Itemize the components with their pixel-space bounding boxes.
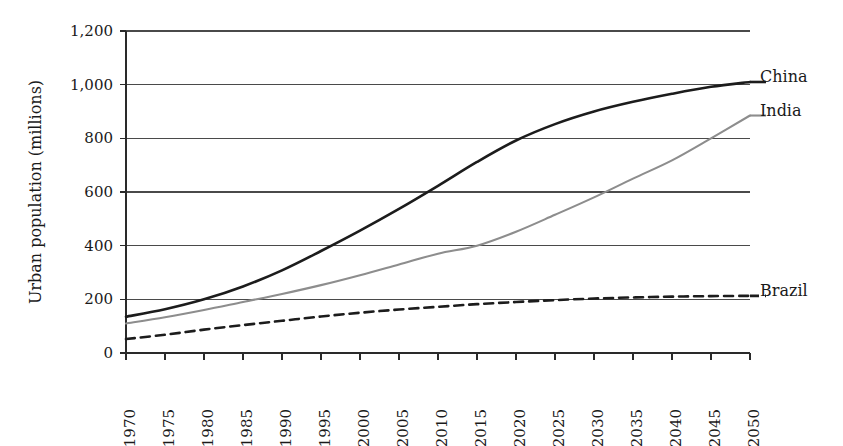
x-tick-label: 2030 [589, 409, 607, 446]
series-labels-group: ChinaIndiaBrazil [750, 67, 808, 300]
x-tick-label: 2000 [355, 409, 373, 446]
x-tick-label: 2035 [628, 409, 646, 446]
gridlines-group [126, 31, 750, 299]
x-tick-label: 2010 [433, 409, 451, 446]
x-tick-label: 2045 [706, 409, 724, 446]
series-line-brazil [126, 296, 750, 339]
y-tick-label: 600 [84, 183, 113, 201]
x-tick-label: 1980 [199, 409, 217, 446]
x-tick-label: 2005 [394, 409, 412, 446]
x-tick-label: 1985 [238, 409, 256, 446]
series-line-china [126, 82, 750, 317]
y-tick-label: 200 [84, 290, 113, 308]
chart-container: 02004006008001,0001,200 1970197519801985… [0, 0, 843, 446]
y-tick-label: 800 [84, 129, 113, 147]
y-axis-title-group: Urban population (millions) [26, 80, 45, 304]
series-label-brazil: Brazil [760, 281, 808, 300]
x-tick-label: 2020 [511, 409, 529, 446]
y-tick-label: 0 [103, 344, 113, 362]
urban-population-line-chart: 02004006008001,0001,200 1970197519801985… [0, 0, 843, 446]
x-tick-label: 1990 [277, 409, 295, 446]
x-tick-label: 2015 [472, 409, 490, 446]
x-tick-label: 1975 [160, 409, 178, 446]
y-axis-group: 02004006008001,0001,200 [70, 22, 126, 362]
x-tick-label: 2050 [745, 409, 763, 446]
x-axis-group: 1970197519801985199019952000200520102015… [121, 353, 763, 446]
x-tick-label: 1995 [316, 409, 334, 446]
y-tick-label: 1,000 [70, 76, 113, 94]
x-tick-label: 2025 [550, 409, 568, 446]
series-label-india: India [760, 101, 802, 120]
y-axis-title: Urban population (millions) [26, 80, 45, 304]
series-group [126, 82, 750, 339]
y-tick-label: 1,200 [70, 22, 113, 40]
y-tick-label: 400 [84, 237, 113, 255]
x-tick-label: 2040 [667, 409, 685, 446]
x-tick-label: 1970 [121, 409, 139, 446]
series-label-china: China [760, 67, 808, 86]
series-line-india [126, 116, 750, 324]
